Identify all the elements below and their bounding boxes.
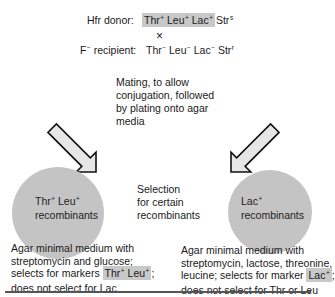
caption-line: does not select for Thr or Leu [181, 284, 335, 297]
sup: + [121, 267, 125, 274]
left-caption: Agar minimal medium with streptomycin an… [11, 242, 154, 294]
gene-thr: Thr [35, 195, 51, 207]
caption-text: selects for markers [11, 267, 103, 279]
sup: + [76, 195, 80, 202]
gene-leu: Leu [58, 195, 76, 207]
gene-leu: Leu [128, 267, 146, 279]
right-caption: Agar minimal medium with streptomycin, l… [181, 244, 335, 296]
gene-lac: Lac [241, 195, 258, 207]
caption-line: leucine; selects for marker Lac+; [181, 269, 335, 284]
gene-lac: Lac [308, 269, 325, 281]
sup: + [326, 269, 330, 276]
bottom-divider [5, 291, 311, 293]
marker-highlight: Lac+ [306, 268, 331, 282]
selection-text: Selection for certain recombinants [137, 183, 200, 222]
sup: + [258, 195, 262, 202]
caption-text: leucine; selects for marker [181, 269, 306, 281]
markers-highlight: Thr+ Leu+ [103, 266, 152, 280]
caption-line: selects for markers Thr+ Leu+; [11, 267, 154, 282]
caption-line: Agar minimal medium with [181, 244, 335, 257]
sup: + [146, 267, 150, 274]
sup: + [51, 195, 55, 202]
caption-line: Agar minimal medium with [11, 242, 154, 255]
caption-text: ; [332, 269, 335, 281]
caption-text: ; [151, 267, 154, 279]
recombinants-label: recombinants [241, 209, 304, 222]
left-plate-label: Thr+ Leu+ recombinants [35, 195, 98, 222]
selection-line: recombinants [137, 209, 200, 222]
right-plate-label: Lac+ recombinants [241, 195, 304, 222]
selection-line: Selection [137, 183, 200, 196]
gene-thr: Thr [105, 267, 121, 279]
recombinants-label: recombinants [35, 209, 98, 222]
selection-line: for certain [137, 196, 200, 209]
